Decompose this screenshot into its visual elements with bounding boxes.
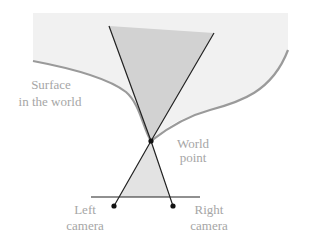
world-point-label-line1: World [177, 136, 210, 151]
left-camera-label-line2: camera [66, 218, 104, 233]
left-camera-marker [111, 203, 116, 208]
world-point-marker [148, 138, 153, 143]
right-camera-label-line2: camera [190, 218, 228, 233]
left-camera-label-line1: Left [74, 202, 96, 217]
stereo-diagram: Surface in the world World point Left ca… [0, 0, 309, 244]
right-camera-marker [170, 203, 175, 208]
surface-label-line2: in the world [19, 94, 82, 109]
surface-label-line1: Surface [31, 77, 71, 92]
world-point-label-line2: point [180, 150, 207, 165]
right-camera-label-line1: Right [195, 202, 224, 217]
lower-view-cone [119, 141, 169, 197]
